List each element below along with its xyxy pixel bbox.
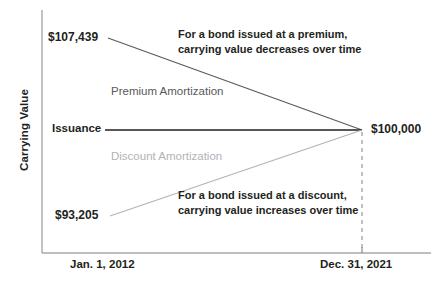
discount-amortization-label: Discount Amortization — [111, 150, 222, 162]
premium-annotation-line-1: For a bond issued at a premium, — [178, 27, 361, 42]
discount-annotation-line-1: For a bond issued at a discount, — [178, 188, 358, 203]
premium-amortization-label: Premium Amortization — [111, 85, 223, 97]
issuance-label: Issuance — [52, 122, 101, 134]
premium-annotation-line-2: carrying value decreases over time — [178, 42, 361, 57]
discount-annotation-line-2: carrying value increases over time — [178, 203, 358, 218]
discount-annotation: For a bond issued at a discount, carryin… — [178, 188, 358, 218]
premium-start-value-label: $107,439 — [48, 30, 98, 44]
maturity-value-label: $100,000 — [371, 122, 421, 136]
premium-annotation: For a bond issued at a premium, carrying… — [178, 27, 361, 57]
bond-carrying-value-chart: Carrying Value $107,439 $93,205 $100,000… — [0, 0, 447, 285]
discount-start-value-label: $93,205 — [55, 208, 98, 222]
y-axis-title: Carrying Value — [18, 80, 30, 180]
x-axis-tick-label-start: Jan. 1, 2012 — [70, 258, 135, 270]
x-axis-tick-label-end: Dec. 31, 2021 — [320, 258, 392, 270]
